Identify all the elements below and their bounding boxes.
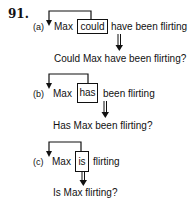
aux-box: has [77,83,98,103]
item-label: (b) [33,89,44,99]
subject: Max [52,156,71,167]
remainder: flirting [93,156,120,167]
subject: Max [53,88,72,99]
item-label: (c) [33,157,44,167]
result-sentence: Has Max been flirting? [53,120,153,131]
result-sentence: Is Max flirting? [53,187,117,198]
example-number: 91. [8,7,29,21]
double-down-arrow-icon [118,34,121,46]
remainder: been flirting [103,88,155,99]
result-sentence: Could Max have been flirting? [54,53,186,64]
aux-box: could [77,19,108,34]
double-down-arrow-icon [104,101,107,113]
item-label: (a) [33,22,44,32]
remainder: have been flirting [111,21,187,32]
arrowhead-icon [46,20,52,26]
double-down-arrow-icon [82,172,85,181]
subject: Max [54,21,73,32]
aux-box: is [75,151,89,172]
